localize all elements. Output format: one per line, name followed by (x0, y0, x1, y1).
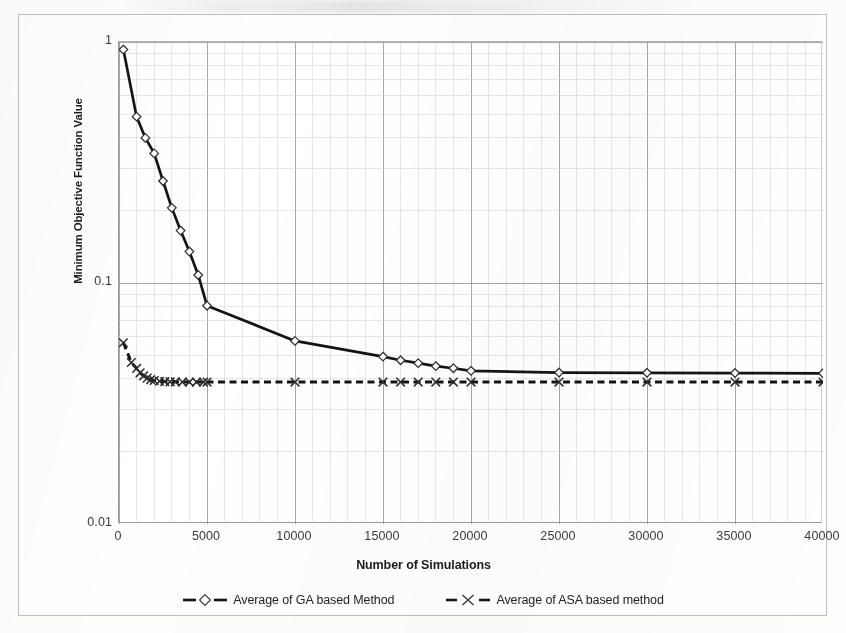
y-tick-label: 0.01 (87, 515, 112, 529)
x-tick-label: 5000 (192, 529, 220, 543)
plot-area (118, 41, 822, 523)
x-tick-label: 15000 (364, 529, 399, 543)
legend-label-asa: Average of ASA based method (496, 593, 663, 607)
legend-marker-diamond-icon (183, 593, 227, 607)
x-axis-title: Number of Simulations (19, 558, 828, 572)
x-tick-label: 0 (114, 529, 121, 543)
scan-smudge (120, 0, 680, 13)
legend-marker-x-icon (446, 593, 490, 607)
legend-label-ga: Average of GA based Method (233, 593, 394, 607)
x-axis-tick-labels: 0500010000150002000025000300003500040000 (118, 529, 822, 549)
y-tick-label: 1 (105, 33, 112, 47)
x-tick-label: 40000 (804, 529, 839, 543)
x-tick-label: 10000 (276, 529, 311, 543)
x-tick-label: 25000 (540, 529, 575, 543)
x-tick-label: 35000 (716, 529, 751, 543)
x-tick-label: 20000 (452, 529, 487, 543)
legend-item-ga[interactable]: Average of GA based Method (183, 593, 394, 607)
y-tick-label: 0.1 (94, 274, 112, 288)
y-axis-title: Minimum Objective Function Value (72, 66, 84, 316)
series-plot (119, 42, 823, 524)
legend-item-asa[interactable]: Average of ASA based method (446, 593, 663, 607)
x-tick-label: 30000 (628, 529, 663, 543)
chart-frame: 0.010.11 0500010000150002000025000300003… (18, 14, 827, 616)
chart-legend: Average of GA based Method Average of AS… (19, 593, 828, 607)
